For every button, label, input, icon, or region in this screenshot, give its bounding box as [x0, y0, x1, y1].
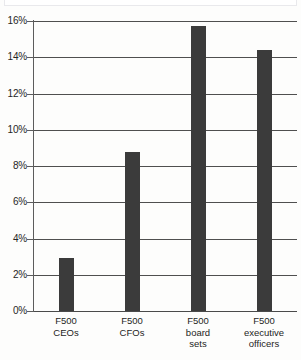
y-axis-tick-mark: [27, 21, 34, 22]
gridline: [33, 311, 297, 312]
y-axis-tick-mark: [27, 275, 34, 276]
y-axis-tick-mark: [27, 239, 34, 240]
bar: [191, 26, 206, 311]
bar: [257, 50, 272, 311]
x-axis-category-label: F500CFOs: [99, 315, 165, 338]
bar: [59, 258, 74, 311]
y-axis-tick-mark: [27, 311, 34, 312]
y-axis-tick-label: 8%: [1, 161, 27, 171]
x-axis-category-labels: F500CEOsF500CFOsF500boardsetsF500executi…: [33, 315, 297, 360]
y-axis-tick-label: 14%: [1, 52, 27, 62]
x-axis-label-line: officers: [231, 338, 297, 350]
y-axis-tick-label: 10%: [1, 125, 27, 135]
x-axis-label-line: board: [165, 327, 231, 339]
y-axis-tick-label: 2%: [1, 270, 27, 280]
x-axis-category-label: F500boardsets: [165, 315, 231, 350]
top-cutoff-border: [4, 0, 297, 6]
y-axis-tick-mark: [27, 94, 34, 95]
x-axis-label-line: sets: [165, 338, 231, 350]
y-axis-tick-label: 4%: [1, 234, 27, 244]
x-axis-label-line: CFOs: [99, 327, 165, 339]
x-axis-label-line: CEOs: [33, 327, 99, 339]
x-axis-label-line: F500: [99, 315, 165, 327]
y-axis-tick-mark: [27, 202, 34, 203]
y-axis-tick-label: 16%: [1, 16, 27, 26]
y-axis-tick-mark: [27, 130, 34, 131]
x-axis-label-line: F500: [165, 315, 231, 327]
chart-screenshot: 0%2%4%6%8%10%12%14%16% F500CEOsF500CFOsF…: [0, 0, 301, 360]
x-axis-label-line: F500: [33, 315, 99, 327]
x-axis-label-line: F500: [231, 315, 297, 327]
x-axis-category-label: F500CEOs: [33, 315, 99, 338]
y-axis-tick-label: 12%: [1, 89, 27, 99]
plot-area: [33, 21, 297, 311]
y-axis-tick-mark: [27, 166, 34, 167]
y-axis-tick-mark: [27, 57, 34, 58]
y-axis-tick-label: 0%: [1, 306, 27, 316]
x-axis-label-line: executive: [231, 327, 297, 339]
bar: [125, 152, 140, 311]
y-axis-tick-labels: 0%2%4%6%8%10%12%14%16%: [0, 0, 27, 360]
x-axis-category-label: F500executiveofficers: [231, 315, 297, 350]
y-axis-tick-label: 6%: [1, 197, 27, 207]
gridline: [33, 21, 297, 22]
